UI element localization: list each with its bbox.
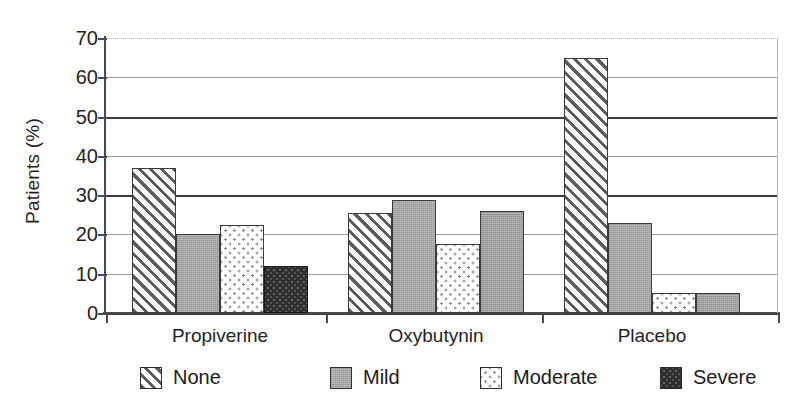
x-tick-mark-3 [778, 314, 780, 323]
bar-placebo-moderate [652, 293, 696, 313]
legend-label-none: None [173, 366, 221, 389]
y-tick-label-70: 70 [52, 28, 98, 48]
bar-oxybutynin-mild [392, 200, 436, 313]
x-axis-label-propiverine: Propiverine [110, 325, 330, 347]
legend-label-moderate: Moderate [513, 366, 598, 389]
x-tick-mark-1 [326, 314, 328, 323]
legend-swatch-moderate-icon [480, 367, 502, 389]
bar-oxybutynin-moderate [436, 244, 480, 313]
y-tick-mark-60 [98, 77, 107, 79]
bar-placebo-mild [608, 223, 652, 313]
bar-placebo-severe [696, 293, 740, 313]
bar-propiverine-none [132, 168, 176, 313]
y-tick-label-20: 20 [52, 224, 98, 244]
bar-chart: Patients (%) 010203040506070 NoneMildMod… [0, 0, 805, 414]
y-tick-label-0: 0 [52, 303, 98, 323]
y-tick-mark-50 [98, 117, 107, 119]
y-tick-mark-10 [98, 274, 107, 276]
y-tick-mark-20 [98, 234, 107, 236]
bars-layer [104, 38, 778, 313]
x-axis-label-placebo: Placebo [542, 325, 762, 347]
x-tick-mark-0 [106, 314, 108, 323]
x-axis-label-oxybutynin: Oxybutynin [326, 325, 546, 347]
bar-placebo-none [564, 58, 608, 313]
legend-swatch-severe-icon [660, 367, 682, 389]
y-tick-mark-70 [98, 38, 107, 40]
y-tick-mark-40 [98, 156, 107, 158]
legend-item-severe[interactable]: Severe [660, 366, 756, 389]
legend-swatch-none-icon [140, 367, 162, 389]
bar-propiverine-mild [176, 234, 220, 313]
bar-oxybutynin-none [348, 213, 392, 313]
legend-label-mild: Mild [363, 366, 400, 389]
y-tick-label-30: 30 [52, 185, 98, 205]
bar-oxybutynin-severe [480, 211, 524, 313]
y-tick-mark-30 [98, 195, 107, 197]
legend-item-none[interactable]: None [140, 366, 221, 389]
bar-propiverine-moderate [220, 225, 264, 313]
legend-item-mild[interactable]: Mild [330, 366, 400, 389]
y-tick-label-60: 60 [52, 67, 98, 87]
y-axis-title: Patients (%) [22, 76, 44, 266]
x-tick-mark-2 [542, 314, 544, 323]
legend-label-severe: Severe [693, 366, 756, 389]
y-tick-label-50: 50 [52, 107, 98, 127]
y-tick-label-40: 40 [52, 146, 98, 166]
y-axis-tick-labels: 010203040506070 [46, 38, 98, 313]
chart-legend: NoneMildModerateSevere [0, 366, 805, 400]
bar-propiverine-severe [264, 266, 308, 313]
legend-swatch-mild-icon [330, 367, 352, 389]
legend-item-moderate[interactable]: Moderate [480, 366, 598, 389]
y-tick-label-10: 10 [52, 264, 98, 284]
